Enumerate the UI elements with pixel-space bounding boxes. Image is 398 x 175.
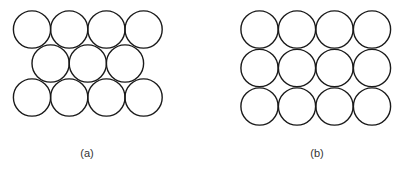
circle [51, 11, 88, 48]
circle [32, 45, 69, 82]
panel-b-label: (b) [310, 147, 323, 159]
circle [69, 45, 106, 82]
circle [241, 49, 278, 86]
circle [13, 11, 50, 48]
circle [353, 11, 390, 48]
circle [88, 79, 125, 116]
circle [241, 88, 278, 125]
circle [316, 88, 353, 125]
circle [278, 49, 315, 86]
circle [125, 79, 162, 116]
circle [353, 88, 390, 125]
panel-a-hexagonal-packing [13, 11, 162, 116]
circle [241, 11, 278, 48]
circle [106, 45, 143, 82]
circle [51, 79, 88, 116]
circle [125, 11, 162, 48]
circle [278, 88, 315, 125]
circle [316, 11, 353, 48]
circle-packing-diagram [0, 0, 398, 175]
panel-a-label: (a) [80, 147, 93, 159]
circle [88, 11, 125, 48]
panel-b-square-packing [241, 11, 391, 125]
circle [13, 79, 50, 116]
circle [353, 49, 390, 86]
circle [316, 49, 353, 86]
circle [278, 11, 315, 48]
